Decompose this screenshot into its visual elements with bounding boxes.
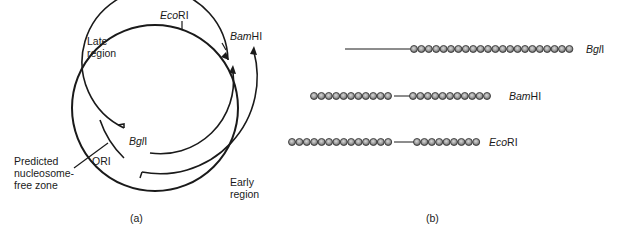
nucleosome-bead [433,46,440,53]
arrow-early-outer [250,46,257,55]
nucleosome-bead [439,93,446,100]
nucleosome-bead [454,93,461,100]
nucleosome-bead [536,46,543,53]
nucleosome-bead [473,139,480,146]
nucleosome-bead [544,46,551,53]
arrow-early-inner [229,65,236,74]
nucleosome-bead [469,93,476,100]
early-transcript-inner-arc [150,72,234,154]
nucleosome-bead [385,93,392,100]
nucleosome-bead [551,46,558,53]
nucleosome-bead [418,46,425,53]
nucleosome-bead [425,46,432,53]
bgli-beads [411,46,573,53]
nucleosome-bead [325,93,332,100]
nucleosome-bead [340,139,347,146]
late-region-label: Late region [87,35,116,59]
late-transcript-arc [82,0,228,128]
nucleosome-bead [470,46,477,53]
nucleosome-bead [566,46,573,53]
nucleosome-bead [421,139,428,146]
nucleosome-bead [448,46,455,53]
nucleosome-bead [377,139,384,146]
nucleosome-bead [318,93,325,100]
nucleosome-bead [447,93,454,100]
nucleosome-bead [414,139,421,146]
nucleosome-bead [348,93,355,100]
early-region-arc [142,52,257,174]
ecori-beads [289,139,480,146]
nucleosome-bead [318,139,325,146]
nucleosome-bead [484,93,491,100]
nucleosome-bead [362,93,369,100]
nucleosome-bead [465,139,472,146]
nucleosome-bead [492,46,499,53]
nucleosome-bead [355,139,362,146]
nucleosome-bead [476,93,483,100]
nucleosome-bead [499,46,506,53]
nucleosome-bead [340,93,347,100]
nucleosome-bead [363,139,370,146]
nucleosome-bead [296,139,303,146]
nucleosome-bead [507,46,514,53]
nucleosome-bead [559,46,566,53]
nucleosome-bead [522,46,529,53]
nucleosome-bead [436,139,443,146]
nucleosome-bead [333,93,340,100]
nucleosome-bead [333,139,340,146]
nucleosome-bead [477,46,484,53]
nucleosome-bead [514,46,521,53]
nucleosome-bead [462,46,469,53]
nucleosome-bead [311,139,318,146]
nucleosome-bead [440,46,447,53]
nucleosome-bead [348,139,355,146]
nucleosome-bead [370,93,377,100]
bamhi-row-label: BamHI [509,90,541,102]
nucleosome-bead [428,139,435,146]
nucleosome-bead [385,139,392,146]
bgli-site-label: BglI [129,135,147,147]
nucleosome-bead [311,93,318,100]
nucleosome-bead [458,139,465,146]
nucleosome-bead [432,93,439,100]
nucleosome-bead [461,93,468,100]
nucleosome-bead [370,139,377,146]
nucleosome-free-zone-label: Predicted nucleosome- free zone [14,155,74,191]
nucleosome-bead [355,93,362,100]
nucleosome-bead [485,46,492,53]
nucleosome-bead [443,139,450,146]
early-region-label: Early region [230,176,259,200]
nucleosome-bead [455,46,462,53]
panel-a-caption: (a) [130,212,143,224]
bamhi-site-label: BamHI [230,30,262,42]
nucleosome-bead [411,46,418,53]
nucleosome-bead [326,139,333,146]
nucleosome-bead [451,139,458,146]
nucleosome-bead [417,93,424,100]
nucleosome-bead [303,139,310,146]
nucleosome-bead [424,93,431,100]
ecori-site-label: EcoRI [160,9,189,21]
panel-b-caption: (b) [426,212,439,224]
ori-label: ORI [92,155,111,167]
bgli-row-label: BglI [586,43,604,55]
nucleosome-bead [289,139,296,146]
nucleosome-bead [529,46,536,53]
nucleosome-bead [377,93,384,100]
nucleosome-bead [410,93,417,100]
ecori-row-label: EcoRI [489,136,518,148]
